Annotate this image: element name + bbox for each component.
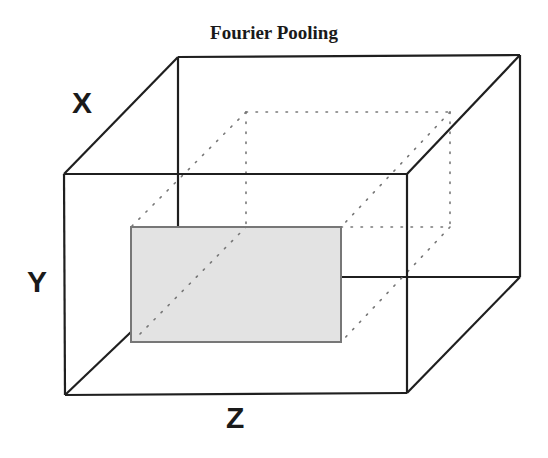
axis-label-z: Z: [226, 403, 244, 433]
cube-drawing: [0, 0, 548, 458]
pooling-plane: [131, 227, 341, 342]
axis-label-x: X: [72, 88, 92, 118]
axis-label-y: Y: [27, 267, 47, 297]
fourier-pooling-diagram: Fourier Pooling: [0, 0, 548, 458]
